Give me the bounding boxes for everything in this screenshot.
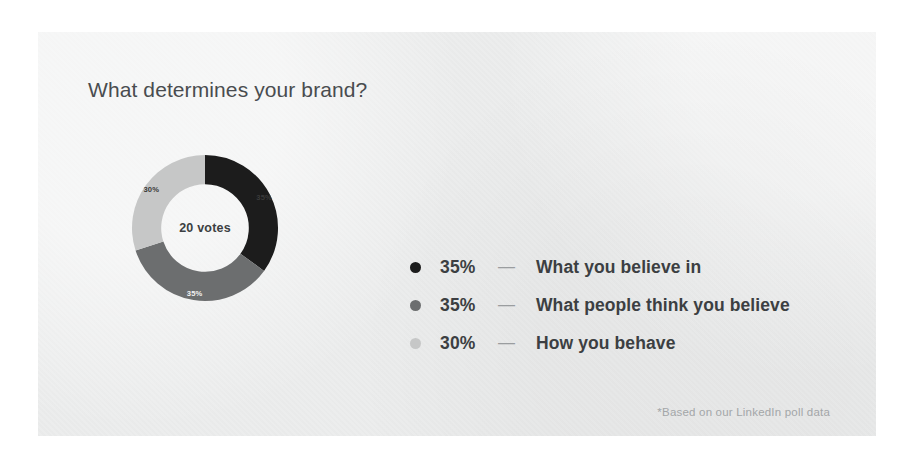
donut-slice-value-label: 30% <box>143 185 159 194</box>
chart-footnote: *Based on our LinkedIn poll data <box>657 406 830 418</box>
legend-item: 35% — What people think you believe <box>410 286 790 324</box>
legend-percent: 35% <box>440 257 498 278</box>
donut-slice-value-label: 35% <box>187 289 203 298</box>
chart-legend: 35% — What you believe in 35% — What peo… <box>410 248 790 362</box>
donut-slice[interactable] <box>205 155 278 271</box>
legend-label: What you believe in <box>536 257 701 278</box>
legend-dash: — <box>498 333 536 353</box>
legend-dash: — <box>498 257 536 277</box>
screenshot-root: What determines your brand? 35%35%30% 20… <box>0 0 917 462</box>
donut-slices <box>132 155 278 301</box>
legend-dash: — <box>498 295 536 315</box>
legend-percent: 35% <box>440 295 498 316</box>
legend-label: How you behave <box>536 333 676 354</box>
donut-chart: 35%35%30% 20 votes <box>130 153 280 303</box>
legend-swatch-icon <box>410 300 421 311</box>
legend-item: 30% — How you behave <box>410 324 790 362</box>
donut-slice-value-label: 35% <box>256 193 272 202</box>
chart-card: What determines your brand? 35%35%30% 20… <box>38 32 876 436</box>
chart-title: What determines your brand? <box>88 78 367 102</box>
legend-label: What people think you believe <box>536 295 790 316</box>
legend-percent: 30% <box>440 333 498 354</box>
legend-swatch-icon <box>410 262 421 273</box>
legend-swatch-icon <box>410 338 421 349</box>
donut-chart-svg: 35%35%30% <box>130 153 280 303</box>
legend-item: 35% — What you believe in <box>410 248 790 286</box>
donut-slice[interactable] <box>132 155 205 251</box>
